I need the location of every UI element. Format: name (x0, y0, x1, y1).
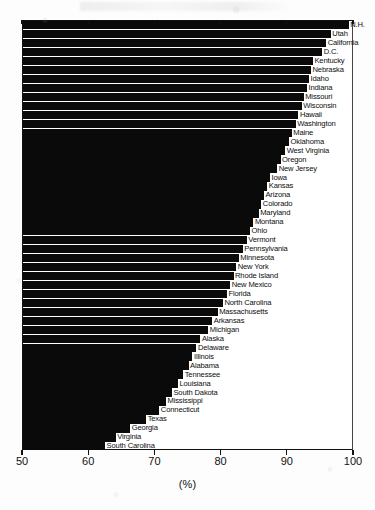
bar (23, 415, 146, 423)
bar (23, 66, 311, 74)
bar-row: D.C. (23, 48, 354, 56)
bar-category-label: Maine (292, 129, 313, 137)
bar-category-label: Michigan (208, 326, 239, 334)
bar-category-label: Maryland (259, 209, 291, 217)
bar-row: Georgia (23, 424, 354, 432)
bar (23, 299, 223, 307)
bar (23, 379, 178, 387)
bar (23, 191, 264, 199)
bar-row: Indiana (23, 84, 354, 92)
bar (23, 308, 218, 316)
bar (23, 182, 267, 190)
bar-category-label: Washington (296, 120, 336, 128)
bar-category-label: Iowa (270, 173, 287, 181)
x-axis-tick-top (220, 20, 221, 24)
bar (23, 155, 281, 163)
bar (23, 245, 243, 253)
bar (23, 57, 313, 65)
bar (23, 227, 250, 235)
bar-category-label: D.C. (322, 48, 338, 56)
bar-category-label: Montana (253, 218, 283, 226)
x-axis-tick-top (352, 20, 353, 24)
bar (23, 30, 331, 38)
bar-row: Vermont (23, 236, 354, 244)
x-axis-tick-top (21, 20, 22, 24)
bar (23, 290, 227, 298)
bar-row: Illinois (23, 352, 354, 360)
bar (23, 317, 212, 325)
bar (23, 209, 259, 217)
bar-row: Florida (23, 290, 354, 298)
bar (23, 164, 277, 172)
bar (23, 442, 105, 450)
bar-category-label: Colorado (261, 200, 292, 208)
bar (23, 39, 326, 47)
x-axis-tick-label: 90 (281, 455, 293, 467)
plot-area: N.H.UtahCaliforniaD.C.KentuckyNebraskaId… (22, 20, 353, 450)
bar (23, 120, 296, 128)
bar-row: Montana (23, 218, 354, 226)
bar-category-label: Rhode Island (234, 272, 278, 280)
bar-category-label: South Dakota (172, 388, 218, 396)
bar-row: Pennsylvania (23, 245, 354, 253)
bar-row: California (23, 39, 354, 47)
bar (23, 111, 298, 119)
bar (23, 200, 261, 208)
bar-row: Delaware (23, 344, 354, 352)
x-axis-tick-label: 70 (148, 455, 160, 467)
bar-category-label: Illinois (192, 353, 213, 361)
bar-category-label: Oklahoma (289, 138, 324, 146)
bar-category-label: Tennessee (183, 370, 220, 378)
bar (23, 397, 166, 405)
bar-category-label: N.H. (349, 21, 365, 29)
bar-category-label: Mississippi (166, 397, 203, 405)
bar-row: Massachusetts (23, 308, 354, 316)
bar (23, 433, 116, 441)
bar-row: Arkansas (23, 317, 354, 325)
bar-row: Iowa (23, 173, 354, 181)
bar (23, 361, 189, 369)
bar-category-label: Vermont (247, 236, 276, 244)
scan-artifact-top (80, 2, 290, 11)
x-axis-tick-label: 60 (82, 455, 94, 467)
bar-category-label: Pennsylvania (243, 245, 288, 253)
x-axis-tick-top (286, 20, 287, 24)
bar (23, 326, 208, 334)
bar (23, 272, 234, 280)
bar (23, 93, 304, 101)
bar-category-label: West Virginia (285, 146, 329, 154)
bar-row: Ohio (23, 227, 354, 235)
bar-series: N.H.UtahCaliforniaD.C.KentuckyNebraskaId… (23, 21, 352, 449)
bar-row: South Carolina (23, 442, 354, 450)
bar-category-label: South Carolina (105, 442, 155, 450)
bar (23, 21, 349, 29)
bar (23, 48, 322, 56)
x-axis-tick-label: 80 (214, 455, 226, 467)
bar-row: North Carolina (23, 299, 354, 307)
bar-row: Nebraska (23, 66, 354, 74)
bar-category-label: Georgia (130, 424, 157, 432)
bar-row: Michigan (23, 326, 354, 334)
bar-category-label: Missouri (304, 93, 333, 101)
bar (23, 254, 239, 262)
bar-row: N.H. (23, 21, 354, 29)
bar-category-label: Idaho (309, 75, 329, 83)
bar (23, 281, 230, 289)
bar-category-label: Virginia (116, 433, 142, 441)
bar-category-label: Oregon (281, 155, 307, 163)
bar-category-label: Connecticut (159, 406, 199, 414)
bar (23, 335, 200, 343)
chart-figure: N.H.UtahCaliforniaD.C.KentuckyNebraskaId… (0, 0, 375, 510)
bar-row: Arizona (23, 191, 354, 199)
bar-category-label: Delaware (196, 344, 228, 352)
bar-row: Connecticut (23, 406, 354, 414)
bar-row: Alaska (23, 335, 354, 343)
bar (23, 424, 130, 432)
bar-category-label: Florida (227, 290, 251, 298)
bar-category-label: Arizona (264, 191, 290, 199)
bar-row: Rhode Island (23, 272, 354, 280)
bar (23, 102, 302, 110)
bar-row: Minnesota (23, 254, 354, 262)
bar-row: Kansas (23, 182, 354, 190)
bar-category-label: Ohio (250, 227, 267, 235)
